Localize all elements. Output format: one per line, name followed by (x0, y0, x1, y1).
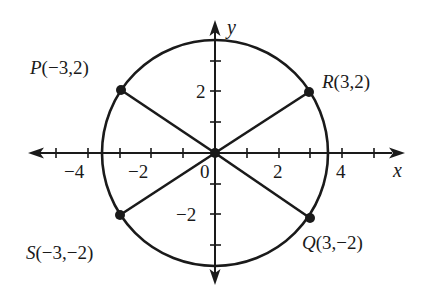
x-tick-label-neg2: −2 (128, 161, 148, 182)
y-tick-label-neg2: −2 (176, 204, 196, 225)
point-p-dot (116, 85, 126, 95)
point-r-name: R (321, 71, 334, 92)
segment-oq (215, 153, 310, 218)
origin-dot (210, 148, 220, 158)
diagram-canvas: −4 −2 0 2 4 2 −2 x y P(−3,2) R(3,2) S(−3… (0, 0, 427, 291)
point-p-coords: (−3,2) (42, 57, 89, 79)
y-axis-label: y (225, 16, 236, 39)
point-s-dot (115, 210, 125, 220)
point-s-label: S(−3,−2) (26, 242, 93, 264)
coordinate-diagram: −4 −2 0 2 4 2 −2 x y P(−3,2) R(3,2) S(−3… (0, 0, 427, 291)
point-s-name: S (26, 242, 36, 263)
y-tick-label-2: 2 (196, 81, 206, 102)
x-axis-label: x (392, 159, 402, 181)
point-p-name: P (29, 57, 42, 78)
segment-or (215, 92, 309, 153)
x-tick-label-2: 2 (273, 161, 283, 182)
point-p-label: P(−3,2) (29, 57, 89, 79)
point-q-coords: (3,−2) (316, 232, 363, 254)
point-q-name: Q (302, 232, 316, 253)
x-tick-label-4: 4 (336, 161, 346, 182)
point-s-coords: (−3,−2) (36, 242, 94, 264)
x-tick-label-neg4: −4 (64, 161, 85, 182)
origin-label: 0 (200, 161, 210, 182)
point-q-label: Q(3,−2) (302, 232, 363, 254)
point-r-coords: (3,2) (334, 71, 370, 93)
point-q-dot (305, 213, 315, 223)
point-r-dot (304, 87, 314, 97)
point-r-label: R(3,2) (321, 71, 370, 93)
